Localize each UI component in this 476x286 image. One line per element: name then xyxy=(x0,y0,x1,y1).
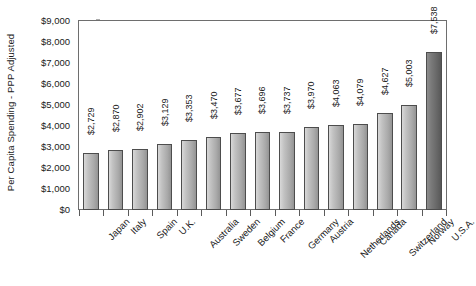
x-axis-category-label: Italy xyxy=(128,216,148,236)
bar[interactable] xyxy=(279,132,295,210)
bar-value-label: $3,696 xyxy=(257,87,267,115)
bar-slot: $4,627 xyxy=(373,21,397,210)
bar-slot: $5,003 xyxy=(397,21,421,210)
bar-slot: $4,079 xyxy=(348,21,372,210)
bar-value-label: $4,063 xyxy=(331,79,341,107)
bar-value-label: $7,538 xyxy=(429,6,439,34)
bar-value-label: $4,627 xyxy=(380,67,390,95)
bar-slot: $3,353 xyxy=(177,21,201,210)
bar-value-label: $2,870 xyxy=(111,104,121,132)
bar-value-label: $2,902 xyxy=(135,104,145,132)
bar-value-label: $3,677 xyxy=(233,87,243,115)
bar-value-label: $5,003 xyxy=(404,59,414,87)
y-axis-tick-label: $0 xyxy=(59,204,70,215)
bar[interactable] xyxy=(255,132,271,210)
bar[interactable] xyxy=(157,144,173,210)
bar-value-label: $2,729 xyxy=(86,107,96,135)
bar-slot: $3,677 xyxy=(226,21,250,210)
bar-slot: $2,902 xyxy=(128,21,152,210)
bar-slot: $3,737 xyxy=(275,21,299,210)
y-axis-tick-label: $2,000 xyxy=(41,162,70,173)
bar[interactable] xyxy=(377,113,393,210)
y-axis-tick-label: $8,000 xyxy=(41,36,70,47)
bar-slot: $2,870 xyxy=(103,21,127,210)
y-axis-tick-label: $3,000 xyxy=(41,141,70,152)
bar[interactable] xyxy=(206,137,222,210)
bar[interactable] xyxy=(83,153,99,210)
y-axis-tick-labels: $0$1,000$2,000$3,000$4,000$5,000$6,000$7… xyxy=(22,20,74,210)
y-axis-tick-label: $6,000 xyxy=(41,78,70,89)
bar-slot: $2,729 xyxy=(79,21,103,210)
bar-slot: $3,470 xyxy=(201,21,225,210)
bar[interactable] xyxy=(426,52,442,210)
bar[interactable] xyxy=(401,105,417,210)
y-axis-tick-label: $5,000 xyxy=(41,99,70,110)
bar-value-label: $3,470 xyxy=(209,92,219,120)
bar[interactable] xyxy=(132,149,148,210)
bar-slot: $3,129 xyxy=(152,21,176,210)
bar[interactable] xyxy=(328,125,344,210)
bar-value-label: $3,737 xyxy=(282,86,292,114)
bar[interactable] xyxy=(108,150,124,210)
bar-slot: $4,063 xyxy=(324,21,348,210)
x-axis-category-label: U.K. xyxy=(177,216,198,237)
bar-value-label: $3,970 xyxy=(306,81,316,109)
y-axis-title: Per Capita Spending - PPP Adjusted xyxy=(0,0,22,225)
x-axis-tick-labels: JapanItalySpainU.K.AustraliaSwedenBelgiu… xyxy=(79,216,446,286)
bar[interactable] xyxy=(230,133,246,210)
y-axis-tick-label: $1,000 xyxy=(41,183,70,194)
bar[interactable] xyxy=(181,140,197,210)
y-axis-tick-label: $4,000 xyxy=(41,120,70,131)
y-axis-tick-label: $7,000 xyxy=(41,57,70,68)
bar-slot: $3,970 xyxy=(299,21,323,210)
y-axis-title-text: Per Capita Spending - PPP Adjusted xyxy=(6,34,17,191)
bar-value-label: $3,129 xyxy=(160,99,170,127)
bar-slot: $3,696 xyxy=(250,21,274,210)
x-axis-tick-mark xyxy=(446,210,447,216)
y-axis-tick-label: $9,000 xyxy=(41,15,70,26)
bar-value-label: $3,353 xyxy=(184,94,194,122)
bar-value-label: $4,079 xyxy=(355,79,365,107)
bar[interactable] xyxy=(304,127,320,210)
bar-slot: $7,538 xyxy=(422,21,446,210)
bar[interactable] xyxy=(353,124,369,210)
plot-area: $2,729$2,870$2,902$3,129$3,353$3,470$3,6… xyxy=(79,21,446,210)
